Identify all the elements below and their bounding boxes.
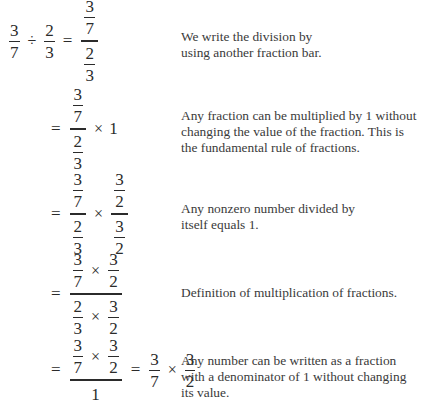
- complex-fraction-left: 3 7 2 3: [70, 171, 87, 256]
- main-fraction-bar: [70, 379, 122, 380]
- step-5-explanation: Any number can be written as a fraction …: [181, 353, 413, 401]
- step-2-expression: = 3 7 2 3 × 1: [45, 88, 118, 170]
- step-4-explanation: Definition of multiplication of fraction…: [181, 285, 421, 301]
- main-fraction-bar: [81, 40, 98, 41]
- divide-operator: ÷: [28, 32, 37, 50]
- multiply-operator: ×: [168, 361, 177, 379]
- fraction-3-7: 3 7: [84, 0, 95, 37]
- equals-sign: =: [51, 204, 61, 224]
- equals-sign: =: [51, 119, 61, 139]
- complex-fraction: 3 7 2 3: [81, 0, 98, 84]
- step-1-explanation: We write the division by using another f…: [181, 29, 331, 61]
- step-5-expression: = 3 7 × 3 2 1 = 3 7: [45, 339, 197, 401]
- main-fraction-bar: [70, 128, 87, 129]
- fraction-3-7: 3 7: [9, 22, 20, 61]
- result-fraction-a: 3 7: [149, 351, 160, 390]
- product-over-one: 3 7 × 3 2 1: [70, 337, 122, 402]
- multiply-operator: ×: [94, 120, 103, 138]
- step-3-expression: = 3 7 2 3 × 3: [45, 173, 130, 255]
- product-fraction: 3 7 × 3 2 2 3 ×: [70, 251, 122, 336]
- step-1-expression: 3 7 ÷ 2 3 = 3 7 2 3: [7, 0, 100, 82]
- equals-sign: =: [63, 31, 73, 51]
- factor-one: 1: [109, 119, 118, 139]
- fraction-2-3: 2 3: [44, 22, 55, 61]
- equals-sign: =: [51, 284, 61, 304]
- complex-fraction: 3 7 2 3: [70, 86, 87, 171]
- step-2-explanation: Any fraction can be multiplied by 1 with…: [181, 108, 417, 156]
- equals-sign: =: [51, 360, 61, 380]
- step-4-expression: = 3 7 × 3 2 2 3: [45, 258, 124, 330]
- main-fraction-bar: [70, 293, 122, 294]
- equals-sign: =: [131, 360, 141, 380]
- multiply-operator: ×: [94, 205, 103, 223]
- fraction-bar: [9, 41, 20, 42]
- main-fraction-bar: [111, 213, 128, 214]
- complex-fraction-right: 3 2 3 2: [111, 171, 128, 256]
- fraction-2-3: 2 3: [84, 45, 95, 84]
- fraction-bar: [44, 41, 55, 42]
- main-fraction-bar: [70, 213, 87, 214]
- step-3-explanation: Any nonzero number divided by itself equ…: [181, 201, 381, 233]
